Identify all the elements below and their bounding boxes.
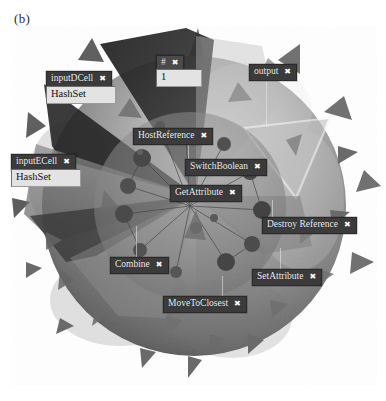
close-icon[interactable]: ✖ — [343, 221, 352, 229]
figure-panel-b: (b) inputDCell ✖ HashSet # ✖ 1 output ✖ … — [0, 0, 386, 401]
field-hash-count[interactable]: 1 — [156, 69, 202, 87]
close-icon[interactable]: ✖ — [155, 261, 164, 269]
close-icon[interactable]: ✖ — [199, 132, 208, 140]
node-label-combine[interactable]: Combine ✖ — [110, 257, 169, 274]
close-icon[interactable]: ✖ — [308, 273, 317, 281]
node-label-output[interactable]: output ✖ — [249, 64, 297, 81]
close-icon[interactable]: ✖ — [228, 189, 237, 197]
leader-line-movetoclosest — [222, 276, 224, 297]
field-hash-count-value: 1 — [161, 71, 166, 82]
node-label-switchboolean[interactable]: SwitchBoolean ✖ — [185, 159, 267, 176]
leader-line-output — [266, 80, 268, 127]
node-label-movetoclosest-text: MoveToClosest — [168, 299, 228, 309]
close-icon[interactable]: ✖ — [233, 300, 242, 308]
field-hashset-e[interactable]: HashSet — [11, 169, 81, 187]
close-icon[interactable]: ✖ — [253, 163, 262, 171]
node-label-output-text: output — [254, 67, 278, 77]
node-label-inputdcell-text: inputDCell — [51, 74, 93, 84]
leader-line-combine — [136, 226, 138, 259]
close-icon[interactable]: ✖ — [98, 75, 107, 83]
node-label-movetoclosest[interactable]: MoveToClosest ✖ — [163, 296, 247, 313]
node-label-inputecell-text: inputECell — [16, 157, 57, 167]
close-icon[interactable]: ✖ — [62, 158, 71, 166]
node-label-switchboolean-text: SwitchBoolean — [190, 162, 248, 172]
field-hashset-e-value: HashSet — [16, 171, 51, 182]
close-icon[interactable]: ✖ — [283, 68, 292, 76]
node-label-getattribute-text: GetAttribute — [175, 188, 223, 198]
panel-label: (b) — [14, 11, 30, 27]
node-label-hostreference-text: HostReference — [138, 131, 194, 141]
node-label-destroyreference-text: Destroy Reference — [267, 220, 338, 230]
node-label-destroyreference[interactable]: Destroy Reference ✖ — [262, 217, 357, 234]
node-label-setattribute-text: SetAttribute — [257, 272, 303, 282]
leader-line-setattribute — [280, 248, 282, 271]
node-label-setattribute[interactable]: SetAttribute ✖ — [252, 269, 322, 286]
node-label-hostreference[interactable]: HostReference ✖ — [133, 128, 213, 145]
node-label-hash-text: # — [161, 58, 166, 68]
close-icon[interactable]: ✖ — [171, 59, 180, 67]
field-hashset-d[interactable]: HashSet — [46, 86, 116, 104]
node-label-getattribute[interactable]: GetAttribute ✖ — [170, 185, 242, 202]
node-label-combine-text: Combine — [115, 260, 150, 270]
field-hashset-d-value: HashSet — [51, 88, 86, 99]
